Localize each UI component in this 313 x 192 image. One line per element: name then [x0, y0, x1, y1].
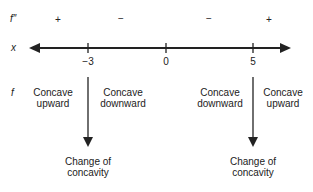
- interval-4-text: Concaveupward: [258, 87, 308, 109]
- f-label: f: [11, 87, 14, 98]
- sign-interval-3: −: [206, 13, 212, 24]
- sign-interval-2: −: [118, 13, 124, 24]
- left-arrow-icon: [29, 43, 40, 53]
- f-double-prime-label: f″: [10, 13, 16, 24]
- tick-label-neg3: −3: [78, 56, 98, 67]
- interval-1-text: Concaveupward: [28, 87, 78, 109]
- right-arrow-icon: [280, 43, 291, 53]
- tick-label-0: 0: [156, 56, 176, 67]
- tick-label-5: 5: [243, 56, 263, 67]
- x-axis: [29, 43, 291, 53]
- change-label-right: Change ofconcavity: [223, 156, 283, 178]
- x-label: x: [11, 42, 16, 53]
- interval-3-text: Concavedownward: [190, 87, 250, 109]
- change-arrow-left: [83, 77, 93, 147]
- change-label-left: Change ofconcavity: [58, 156, 118, 178]
- sign-interval-1: +: [55, 14, 61, 25]
- interval-2-text: Concavedownward: [93, 87, 153, 109]
- sign-interval-4: +: [266, 14, 272, 25]
